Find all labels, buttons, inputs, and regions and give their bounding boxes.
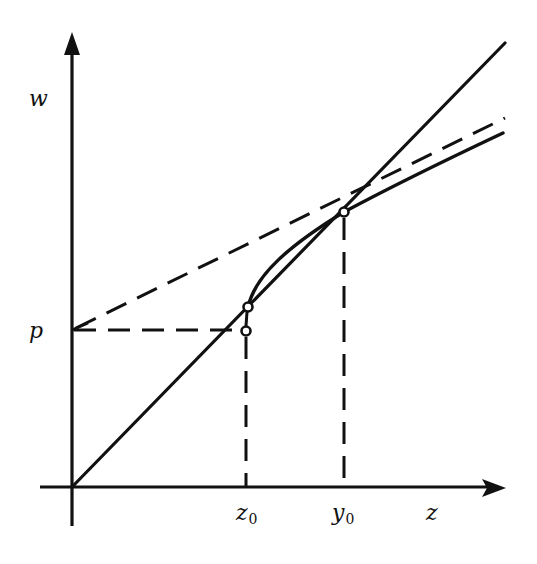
- y0-label-subscript: 0: [345, 511, 354, 527]
- p-label: p: [29, 320, 43, 342]
- y0-label-main: y: [332, 500, 344, 525]
- vertical-axis-arrowhead-icon: [64, 32, 80, 55]
- diagram-canvas: [0, 0, 537, 564]
- z-axis-label: z: [426, 502, 438, 524]
- p-level-point: [242, 327, 251, 336]
- y0-point: [340, 208, 349, 217]
- z0-label: z0: [236, 502, 258, 526]
- horizontal-axis: [40, 479, 506, 497]
- z0-label-subscript: 0: [249, 511, 258, 527]
- curve-start-point: [244, 303, 253, 312]
- vertical-axis: [64, 32, 80, 526]
- tangent-line: [76, 118, 505, 328]
- concave-curve: [248, 133, 503, 307]
- diagonal-line: [72, 43, 505, 487]
- w-axis-label: w: [29, 88, 48, 110]
- z0-label-main: z: [236, 500, 248, 525]
- z0-connector: [246, 312, 247, 326]
- y0-label: y0: [332, 502, 354, 526]
